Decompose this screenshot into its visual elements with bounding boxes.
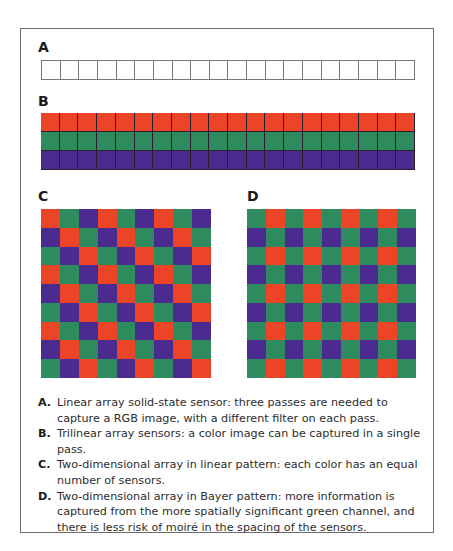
sensor-cell-green [60, 132, 79, 151]
sensor-cell-red [247, 113, 266, 132]
sensor-cell-green [322, 359, 341, 378]
sensor-cell [395, 60, 415, 80]
sensor-cell-green [360, 322, 379, 341]
sensor-cell-purple [41, 340, 60, 359]
sensor-cell-red [266, 359, 285, 378]
sensor-cell-green [192, 284, 211, 303]
sensor-cell-purple [378, 151, 397, 170]
sensor-cell-red [117, 284, 136, 303]
sensor-cell-red [378, 247, 397, 266]
sensor-cell-purple [247, 151, 266, 170]
sensor-cell-green [41, 359, 60, 378]
caption-list: A. Linear array solid-state sensor: thre… [38, 395, 433, 535]
sensor-cell-purple [360, 303, 379, 322]
caption-letter: B. [38, 426, 57, 457]
sensor-cell-purple [154, 284, 173, 303]
sensor-cell [116, 60, 136, 80]
sensor-cell-green [153, 132, 172, 151]
sensor-cell [227, 60, 247, 80]
sensor-cell-red [41, 322, 60, 341]
sensor-cell-green [135, 228, 154, 247]
sensor-cell-red [265, 113, 284, 132]
sensor-cell-purple [191, 151, 210, 170]
sensor-cell [283, 60, 303, 80]
sensor-cell-green [303, 340, 322, 359]
sensor-cell [246, 60, 266, 80]
sensor-cell-purple [247, 228, 266, 247]
sensor-cell-purple [172, 151, 191, 170]
sensor-cell-purple [360, 265, 379, 284]
sensor-cell [190, 60, 210, 80]
sensor-cell-red [98, 322, 117, 341]
sensor-cell-red [79, 303, 98, 322]
sensor-cell-green [341, 228, 360, 247]
sensor-cell-green [265, 132, 284, 151]
sensor-cell-green [303, 132, 322, 151]
sensor-cell-purple [173, 359, 192, 378]
sensor-cell-red [60, 228, 79, 247]
sensor-cell-red [266, 322, 285, 341]
sensor-cell-green [360, 359, 379, 378]
caption-text: Two-dimensional array in linear pattern:… [57, 457, 433, 488]
sensor-cell-red [341, 209, 360, 228]
sensor-cell-red [154, 322, 173, 341]
sensor-cell-green [209, 132, 228, 151]
sensor-cell-red [209, 113, 228, 132]
sensor-cell-green [322, 322, 341, 341]
sensor-cell-green [173, 265, 192, 284]
sensor-cell-green [341, 340, 360, 359]
sensor-cell-red [154, 209, 173, 228]
sensor-cell-red [303, 284, 322, 303]
sensor-cell-green [397, 284, 416, 303]
sensor-cell-red [303, 113, 322, 132]
sensor-cell-green [192, 340, 211, 359]
sensor-cell [339, 60, 359, 80]
sensor-cell-green [60, 322, 79, 341]
sensor-cell-purple [116, 151, 135, 170]
sensor-cell-purple [154, 340, 173, 359]
sensor-cell-green [397, 247, 416, 266]
sensor-cell-red [117, 340, 136, 359]
sensor-cell [153, 60, 173, 80]
caption-c: C. Two-dimensional array in linear patte… [38, 457, 433, 488]
sensor-cell-green [397, 209, 416, 228]
sensor-cell-green [79, 228, 98, 247]
sensor-cell-green [135, 284, 154, 303]
caption-letter: A. [38, 395, 57, 426]
sensor-cell-purple [340, 151, 359, 170]
sensor-cell-green [98, 359, 117, 378]
sensor-cell-red [172, 113, 191, 132]
sensor-cell-purple [228, 151, 247, 170]
sensor-cell-purple [135, 151, 154, 170]
sensor-cell-green [79, 340, 98, 359]
sensor-cell-green [266, 340, 285, 359]
sensor-cell [41, 60, 61, 80]
sensor-cell-purple [98, 228, 117, 247]
sensor-cell-green [322, 247, 341, 266]
sensor-cell-red [79, 359, 98, 378]
sensor-cell-purple [154, 228, 173, 247]
sensor-cell-green [247, 209, 266, 228]
sensor-cell-red [192, 303, 211, 322]
sensor-cell-green [117, 322, 136, 341]
sensor-cell-green [266, 265, 285, 284]
sensor-cell-green [154, 359, 173, 378]
sensor-cell-red [135, 359, 154, 378]
sensor-cell-purple [192, 209, 211, 228]
sensor-cell-red [60, 340, 79, 359]
section-b-label: B [38, 93, 49, 109]
sensor-cell-red [173, 228, 192, 247]
sensor-cell-green [228, 132, 247, 151]
sensor-cell [209, 60, 229, 80]
sensor-cell-red [228, 113, 247, 132]
sensor-cell-red [266, 247, 285, 266]
sensor-cell-purple [60, 151, 79, 170]
linear-array-strip [42, 60, 415, 80]
sensor-cell-purple [97, 151, 116, 170]
sensor-cell-purple [41, 284, 60, 303]
sensor-cell [97, 60, 117, 80]
sensor-cell-green [173, 209, 192, 228]
sensor-cell-red [396, 113, 415, 132]
bayer-pattern-grid [247, 209, 416, 378]
sensor-cell-green [247, 284, 266, 303]
